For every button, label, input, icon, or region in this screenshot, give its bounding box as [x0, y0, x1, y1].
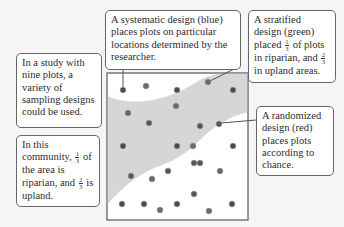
plot-dot-systematic [229, 201, 235, 207]
plot-dot-stratified [217, 168, 223, 174]
plot-dot-systematic [141, 201, 147, 207]
study-callout: In a study with nine plots, a variety of… [16, 53, 102, 128]
plot-dot-randomized [128, 173, 134, 179]
fraction-one-third: 13 [285, 39, 289, 52]
plot-dot-systematic [174, 143, 180, 149]
fraction-one-third: 13 [75, 151, 79, 164]
systematic-design-callout: A systematic design (blue) places plots … [105, 10, 241, 70]
plot-dot-stratified [173, 103, 179, 109]
study-text: In a study with nine plots, a variety of… [22, 57, 95, 117]
fraction-two-thirds: 23 [321, 52, 325, 65]
plot-dot-randomized [191, 160, 197, 166]
plot-dot-stratified [157, 207, 163, 213]
fraction-two-thirds: 23 [79, 177, 83, 190]
plot-dot-randomized [191, 191, 197, 197]
plot-dot-systematic [230, 87, 236, 93]
plot-dot-randomized [197, 123, 203, 129]
plot-dot-randomized [146, 120, 152, 126]
randomized-text: A randomized design (red) places plots a… [262, 110, 321, 170]
plot-dot-stratified [143, 83, 149, 89]
plot-dot-stratified [205, 79, 211, 85]
plot-dot-systematic [174, 201, 180, 207]
systematic-text: A systematic design (blue) places plots … [111, 14, 227, 62]
plot-dot-stratified [149, 176, 155, 182]
plot-dot-randomized [165, 168, 171, 174]
plot-dot-stratified [206, 208, 212, 214]
plot-dot-systematic [120, 143, 126, 149]
plot-dot-stratified [125, 110, 131, 116]
plot-dot-systematic [120, 87, 126, 93]
plot-dot-randomized [197, 160, 203, 166]
stratified-design-callout: A stratified design (green) placed 13 of… [248, 10, 336, 83]
plot-dot-systematic [174, 87, 180, 93]
plot-dot-randomized [216, 121, 222, 127]
plot-dot-systematic [119, 201, 125, 207]
randomized-design-callout: A randomized design (red) places plots a… [256, 106, 334, 176]
plot-dot-stratified [190, 143, 196, 149]
plot-dot-systematic [230, 143, 236, 149]
community-callout: In this community, 13 of the area is rip… [16, 135, 100, 207]
